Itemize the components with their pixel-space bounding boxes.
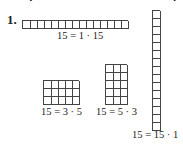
grid-cell (121, 21, 129, 29)
grid-cell (120, 65, 128, 73)
grid-cell (153, 91, 161, 99)
grid-3x5 (43, 80, 79, 105)
cutoff-header-text: Chapter (8, 0, 51, 1)
grid-15x1 (152, 10, 160, 131)
problem-number: 1. (7, 12, 17, 28)
cutoff-header: Chapter p (8, 0, 178, 1)
grid-cell (153, 11, 161, 19)
grid-cell (153, 99, 161, 107)
grid-cell (120, 97, 128, 105)
cutoff-header-right: p (173, 0, 178, 1)
equation-1x15: 15 = 1 · 15 (57, 30, 103, 41)
grid-cell (153, 35, 161, 43)
grid-cell (153, 19, 161, 27)
grid-cell (120, 81, 128, 89)
grid-cell (153, 115, 161, 123)
equation-3x5: 15 = 3 · 5 (41, 106, 82, 117)
grid-cell (153, 83, 161, 91)
grid-cell (153, 51, 161, 59)
equation-5x3: 15 = 5 · 3 (96, 106, 137, 117)
grid-cell (153, 67, 161, 75)
grid-cell (120, 73, 128, 81)
grid-cell (120, 89, 128, 97)
grid-cell (153, 27, 161, 35)
grid-cell (72, 89, 80, 97)
grid-cell (153, 59, 161, 67)
grid-1x15 (22, 20, 128, 29)
grid-cell (153, 107, 161, 115)
grid-cell (153, 43, 161, 51)
equation-15x1: 15 = 15 · 1 (132, 129, 178, 140)
grid-cell (72, 81, 80, 89)
grid-5x3 (105, 64, 127, 105)
grid-cell (72, 97, 80, 105)
grid-cell (153, 75, 161, 83)
